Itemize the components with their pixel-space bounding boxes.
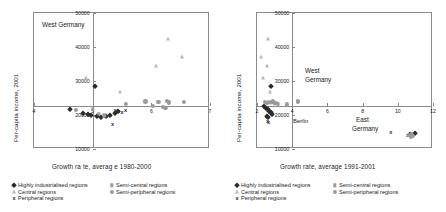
triangle-marker [266, 36, 270, 40]
legend-marker-swatch [233, 189, 241, 196]
legend-item[interactable]: Highly industrialised regions [10, 182, 88, 189]
x-tick-label: 4 [24, 108, 44, 114]
plot-area-right: 100002000030000400005000024681012xxxxxx [256, 12, 432, 148]
circle-marker [156, 100, 160, 104]
y-tick-label: 40000 [256, 44, 289, 50]
x-tick-label: 10 [388, 108, 408, 114]
x-tick-label: 7 [200, 108, 220, 114]
y-tick-mark [93, 13, 96, 14]
triangle-marker [261, 76, 265, 80]
legend-label: Highly industrialised regions [241, 182, 311, 189]
circle-marker [265, 101, 269, 105]
x-tick-mark [210, 103, 211, 106]
legend-marker-swatch [108, 189, 116, 196]
y-tick-label: 50000 [256, 10, 289, 16]
y-tick-label: 50000 [57, 10, 90, 16]
cross-marker: x [12, 195, 17, 201]
x-axis-title-right: Growth rate, average 1991-2001 [280, 163, 376, 171]
legend-column: Highly industrialised regionsCentral reg… [10, 182, 88, 202]
circle-marker [409, 135, 413, 139]
legend-label: Semi-central regions [339, 182, 390, 189]
x-tick-label: 6 [317, 108, 337, 114]
x-axis-line [257, 106, 431, 107]
y-axis-title-left: Per-capita income, 2001 [12, 74, 20, 142]
legend-marker-swatch: x [10, 195, 18, 202]
y-tick-label: 10000 [256, 146, 289, 152]
y-tick-mark [292, 149, 295, 150]
y-tick-mark [93, 47, 96, 48]
legend-column: Semi-central regionsSemi-peripheral regi… [108, 182, 175, 195]
triangle-marker [154, 64, 158, 68]
x-tick-label: 4 [282, 108, 302, 114]
annotation-east-line1: East [356, 116, 369, 124]
legend-label: Semi-peripheral regions [116, 189, 175, 196]
square-marker [91, 108, 94, 111]
y-tick-mark [93, 149, 96, 150]
legend-item[interactable]: Semi-central regions [108, 182, 175, 189]
circle-marker [167, 100, 171, 104]
y-axis-line [292, 13, 293, 147]
legend-item[interactable]: Central regions [10, 189, 88, 196]
annotation-east-line2: Germany [352, 125, 378, 133]
legend-marker-swatch [233, 182, 241, 189]
y-tick-mark [292, 81, 295, 82]
circle-marker [333, 190, 337, 194]
triangle-marker [268, 89, 272, 93]
square-marker [110, 184, 113, 187]
legend-item[interactable]: Semi-peripheral regions [108, 189, 175, 196]
legend-marker-swatch [331, 189, 339, 196]
triangle-marker [259, 55, 263, 59]
x-axis-line [34, 106, 208, 107]
circle-marker [182, 100, 186, 104]
diamond-marker [234, 183, 239, 188]
x-axis-title-left: Growth ra te, averag e 1980-2000 [52, 163, 151, 171]
x-tick-mark [93, 103, 94, 106]
x-tick-label: 12 [423, 108, 443, 114]
x-tick-mark [34, 103, 35, 106]
y-tick-mark [292, 115, 295, 116]
square-marker [103, 114, 106, 117]
legend-label: Semi-peripheral regions [339, 189, 398, 196]
x-tick-mark [398, 103, 399, 106]
legend-label: Central regions [18, 189, 56, 196]
y-tick-mark [292, 47, 295, 48]
legend-marker-swatch [10, 189, 18, 196]
legend-item[interactable]: xPeripheral regions [233, 195, 311, 202]
triangle-marker [12, 189, 16, 193]
triangle-marker [265, 64, 269, 68]
cross-marker: x [266, 119, 271, 125]
annotation-west-line2: Germany [305, 76, 331, 84]
legend-marker-swatch: x [233, 195, 241, 202]
y-tick-label: 40000 [57, 44, 90, 50]
legend-item[interactable]: xPeripheral regions [10, 195, 88, 202]
figure-two-scatter-plots: 10000200003000040000500004567xxxxx Per-c… [0, 0, 446, 212]
legend-item[interactable]: Semi-central regions [331, 182, 398, 189]
legend-column: Semi-central regionsSemi-peripheral regi… [331, 182, 398, 195]
x-tick-mark [257, 103, 258, 106]
cross-marker: x [123, 107, 128, 113]
legend-label: Peripheral regions [241, 195, 286, 202]
y-tick-mark [292, 13, 295, 14]
x-tick-mark [327, 103, 328, 106]
plot-area-left: 10000200003000040000500004567xxxxx [33, 12, 209, 148]
x-tick-label: 6 [141, 108, 161, 114]
x-tick-mark [433, 103, 434, 106]
legend-label: Highly industrialised regions [18, 182, 88, 189]
legend-column: Highly industrialised regionsCentral reg… [233, 182, 311, 202]
circle-marker [74, 107, 78, 111]
annotation-west-line1: West [305, 67, 319, 75]
y-axis-line [93, 13, 94, 147]
legend-item[interactable]: Highly industrialised regions [233, 182, 311, 189]
square-marker [97, 112, 100, 115]
panel-left: 10000200003000040000500004567xxxxx Per-c… [0, 0, 223, 212]
panel-right: 100002000030000400005000024681012xxxxxx … [223, 0, 446, 212]
circle-marker [143, 99, 147, 103]
triangle-marker [180, 55, 184, 59]
circle-marker [296, 99, 300, 103]
circle-marker [110, 190, 114, 194]
x-tick-mark [292, 103, 293, 106]
legend-item[interactable]: Semi-peripheral regions [331, 189, 398, 196]
triangle-marker [235, 189, 239, 193]
diamond-marker [11, 183, 16, 188]
legend-item[interactable]: Central regions [233, 189, 311, 196]
